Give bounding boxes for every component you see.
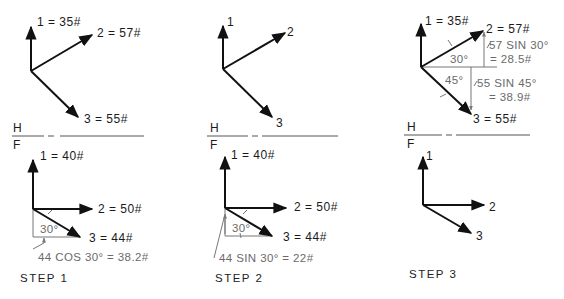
vector-2-label: 2	[489, 200, 496, 214]
vector-2-arrow	[31, 35, 92, 71]
vector-2-label: 2 = 57#	[97, 26, 141, 40]
vector-1-label: 1 = 40#	[231, 148, 275, 162]
component-note-2-line1: 57 SIN 30°	[489, 39, 549, 51]
panel-3-top-view: 1 = 35# 2 = 57# 3 = 55# 30° 45° 57 SIN 3…	[421, 14, 549, 126]
vector-1-label: 1 = 40#	[40, 149, 84, 163]
fold-label-h: H	[13, 121, 22, 135]
vector-3-arrow	[223, 69, 272, 117]
step-label: STEP 3	[409, 268, 457, 280]
vector-1-label: 1 = 35#	[37, 15, 81, 29]
fold-label-f: F	[210, 138, 218, 152]
component-note: 44 SIN 30° = 22#	[219, 252, 314, 264]
vector-3-label: 3 = 44#	[283, 230, 327, 244]
fold-label-f: F	[407, 137, 415, 151]
component-note-2-line2: = 28.5#	[490, 53, 532, 65]
vector-3-label: 3	[476, 229, 483, 243]
fold-label-f: F	[13, 138, 21, 152]
angle-label: 30°	[40, 223, 59, 235]
panel-2-top-view: 1 2 3	[223, 15, 294, 130]
component-note: 44 COS 30° = 38.2#	[38, 251, 149, 263]
vector-3-label: 3 = 55#	[473, 112, 517, 126]
vector-2-label: 2 = 50#	[294, 200, 338, 214]
step-label: STEP 2	[215, 272, 263, 284]
vector-3-label: 3 = 55#	[84, 112, 128, 126]
vector-2-arrow	[223, 33, 285, 69]
fold-label-h: H	[407, 120, 416, 134]
panel-3-front-view: 1 2 3 STEP 3	[409, 149, 496, 280]
panel-2-front-view: 1 = 40# 2 = 50# 3 = 44# 30° 44 SIN 30° =…	[214, 148, 338, 284]
vector-3-label: 3	[276, 116, 283, 130]
component-note-3-line1: 55 SIN 45°	[477, 77, 537, 89]
component-note-3-line2: = 38.9#	[489, 91, 531, 103]
panel-1-front-view: 1 = 40# 2 = 50# 3 = 44# 30° 44 COS 30° =…	[20, 149, 149, 284]
angle-label: 30°	[232, 222, 251, 234]
vector-1-label: 1	[227, 15, 234, 29]
vector-3-label: 3 = 44#	[89, 231, 133, 245]
vector-3-arrow	[31, 71, 78, 117]
angle-upper-label: 30°	[450, 53, 469, 65]
panel-1-top-view: 1 = 35# 2 = 57# 3 = 55#	[31, 15, 141, 126]
vector-2-label: 2 = 57#	[486, 22, 530, 36]
vector-1-label: 1	[426, 149, 433, 163]
step-label: STEP 1	[20, 272, 68, 284]
angle-lower-label: 45°	[445, 74, 464, 86]
vector-3-arrow	[423, 205, 471, 233]
vector-2-label: 2	[287, 25, 294, 39]
vector-diagram: H F H F H F 1 = 35# 2 = 57# 3 = 55# 1 = …	[0, 0, 564, 299]
vector-2-label: 2 = 50#	[98, 202, 142, 216]
vector-1-label: 1 = 35#	[425, 14, 469, 28]
fold-label-h: H	[210, 121, 219, 135]
